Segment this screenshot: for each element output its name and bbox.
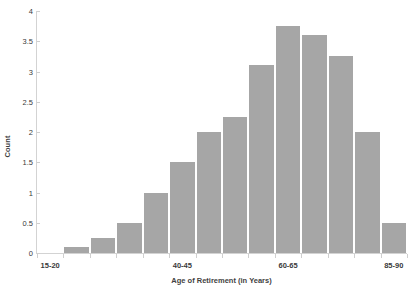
y-axis-tick-labels: 00.511.522.533.54 xyxy=(13,0,36,292)
x-axis-tick-mark xyxy=(222,254,223,258)
histogram-bar xyxy=(301,35,327,253)
x-axis-tick-mark xyxy=(143,254,144,258)
y-axis-tick-mark xyxy=(37,162,40,163)
x-axis-tick-mark xyxy=(63,254,64,258)
y-axis-tick-mark xyxy=(37,72,40,73)
y-axis-tick-label: 3.5 xyxy=(23,37,33,46)
y-axis-tick-mark xyxy=(37,193,40,194)
y-axis-tick-mark xyxy=(37,11,40,12)
histogram-bar xyxy=(354,132,380,253)
x-axis-tick-mark xyxy=(354,254,355,258)
x-axis-tick-label: 40-45 xyxy=(173,261,192,270)
x-axis-tick-label: 15-20 xyxy=(41,261,60,270)
x-axis-tick-mark xyxy=(275,254,276,258)
y-axis-tick-label: 2.5 xyxy=(23,97,33,106)
histogram-bar xyxy=(328,56,354,253)
y-axis-tick-mark xyxy=(37,102,40,103)
x-axis-tick-label: 85-90 xyxy=(384,261,403,270)
x-axis-tick-mark xyxy=(328,254,329,258)
y-axis-title: Count xyxy=(0,0,14,292)
histogram-bar xyxy=(196,132,222,253)
x-axis-tick-mark xyxy=(248,254,249,258)
histogram-bar xyxy=(90,238,116,253)
x-axis-tick-mark xyxy=(301,254,302,258)
histogram-bar xyxy=(222,117,248,253)
y-axis-title-text: Count xyxy=(3,135,12,157)
x-axis-tick-mark xyxy=(116,254,117,258)
y-axis-tick-label: 2 xyxy=(29,128,33,137)
histogram-bar xyxy=(116,223,142,253)
x-axis-tick-label: 60-65 xyxy=(278,261,297,270)
y-axis-tick-mark xyxy=(37,132,40,133)
histogram-bar xyxy=(381,223,407,253)
y-axis-tick-label: 0 xyxy=(29,249,33,258)
y-axis-tick-mark xyxy=(37,223,40,224)
y-axis-tick-label: 1.5 xyxy=(23,158,33,167)
x-axis-tick-mark xyxy=(169,254,170,258)
y-axis-tick-label: 4 xyxy=(29,7,33,16)
x-axis-tick-mark xyxy=(37,254,38,258)
y-axis-tick-label: 3 xyxy=(29,67,33,76)
x-axis-title: Age of Retirement (in Years) xyxy=(36,276,407,285)
x-axis-tick-mark xyxy=(90,254,91,258)
histogram-chart: Count 00.511.522.533.54 Age of Retiremen… xyxy=(0,0,408,292)
y-axis-tick-label: 0.5 xyxy=(23,218,33,227)
plot-area xyxy=(37,11,407,253)
x-axis-tick-mark xyxy=(196,254,197,258)
histogram-bar xyxy=(169,162,195,253)
y-axis-tick-label: 1 xyxy=(29,188,33,197)
histogram-bar xyxy=(143,193,169,254)
x-axis-tick-mark xyxy=(381,254,382,258)
y-axis-tick-mark xyxy=(37,41,40,42)
histogram-bar xyxy=(63,247,89,253)
histogram-bar xyxy=(275,26,301,253)
histogram-bar xyxy=(248,65,274,253)
